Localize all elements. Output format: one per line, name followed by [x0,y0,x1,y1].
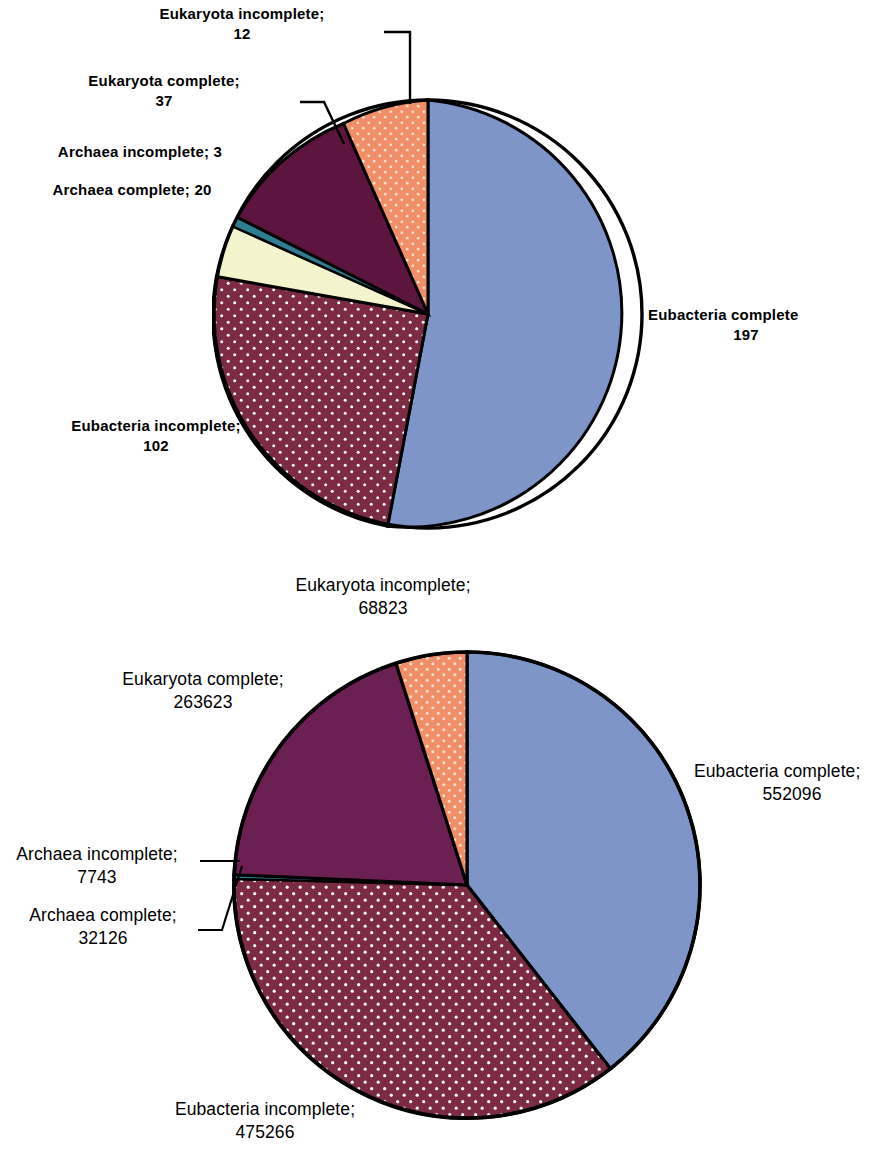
label-eubacteria-incomplete-top: Eubacteria incomplete; 102 [32,416,280,456]
label-text: Archaea incomplete; 3 [0,142,280,162]
label-value: 102 [32,436,280,456]
label-eubacteria-incomplete-bottom: Eubacteria incomplete; 475266 [110,1098,420,1144]
label-value: 7743 [0,866,202,889]
label-value: 263623 [58,691,348,714]
label-text: Eubacteria incomplete; [110,1098,420,1121]
label-eubacteria-complete-bottom: Eubacteria complete; 552096 [694,760,894,806]
label-text: Archaea incomplete; [0,843,202,866]
label-eubacteria-complete-top: Eubacteria complete 197 [648,305,894,345]
label-text: Archaea complete; 20 [0,180,272,200]
label-value: 32126 [8,927,198,950]
label-eukaryota-complete-top: Eukaryota complete; 37 [14,71,314,111]
label-value: 475266 [110,1121,420,1144]
label-text: Eukaryota incomplete; [238,574,528,597]
label-archaea-incomplete-top: Archaea incomplete; 3 [0,142,280,162]
label-text: Eubacteria complete [648,305,894,325]
label-value: 552096 [694,783,890,806]
label-value: 68823 [238,597,528,620]
label-eukaryota-complete-bottom: Eukaryota complete; 263623 [58,668,348,714]
label-text: Eukaryota complete; [58,668,348,691]
label-value: 197 [648,325,844,345]
pie-svg-top [212,98,644,530]
pie-graphic-bottom [232,650,702,1120]
pie-graphic-top [212,98,644,530]
pie-chart-genome-counts: Eukaryota incomplete; 12 Eukaryota compl… [0,0,894,560]
label-value: 12 [92,24,392,44]
label-archaea-complete-top: Archaea complete; 20 [0,180,272,200]
label-archaea-complete-bottom: Archaea complete; 32126 [8,904,198,950]
label-text: Eukaryota complete; [14,71,314,91]
label-eukaryota-incomplete-bottom: Eukaryota incomplete; 68823 [238,574,528,620]
label-value: 37 [14,91,314,111]
label-text: Eubacteria incomplete; [32,416,280,436]
label-text: Eubacteria complete; [694,760,894,783]
label-text: Archaea complete; [8,904,198,927]
label-text: Eukaryota incomplete; [92,4,392,24]
pie-svg-bottom [232,650,702,1120]
label-archaea-incomplete-bottom: Archaea incomplete; 7743 [0,843,202,889]
pie-slice-eubacteria-incomplete [213,277,428,527]
label-eukaryota-incomplete-top: Eukaryota incomplete; 12 [92,4,392,44]
pie-chart-sequence-counts: Eukaryota incomplete; 68823 Eukaryota co… [0,560,894,1160]
